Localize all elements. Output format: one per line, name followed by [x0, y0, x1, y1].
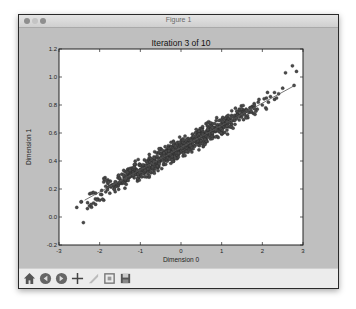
- y-axis-label: Dimension 1: [25, 129, 32, 166]
- x-tick-label: 0: [179, 248, 183, 254]
- forward-button[interactable]: [54, 271, 68, 285]
- home-icon: [23, 272, 36, 285]
- subplots-config-icon: [103, 272, 116, 285]
- y-tick-label: 0.8: [49, 102, 58, 108]
- save-button[interactable]: [118, 271, 132, 285]
- move-crosshair-icon: [71, 272, 84, 285]
- x-tick-label: 1: [220, 248, 224, 254]
- zoom-button[interactable]: [86, 271, 100, 285]
- window-title: Figure 1: [19, 16, 338, 23]
- y-tick-label: 0.4: [49, 158, 58, 164]
- back-button[interactable]: [38, 271, 52, 285]
- window-titlebar[interactable]: Figure 1: [19, 15, 338, 28]
- y-tick-label: 1.0: [49, 74, 58, 80]
- navigation-toolbar: [19, 268, 338, 288]
- chart-title: Iteration 3 of 10: [151, 38, 210, 48]
- back-arrow-icon: [39, 272, 52, 285]
- y-tick-label: 1.2: [49, 46, 58, 52]
- figure-canvas[interactable]: -3-2-10123-0.20.00.20.40.60.81.01.2 Iter…: [19, 28, 338, 270]
- y-tick-label: 0.0: [49, 214, 58, 220]
- home-button[interactable]: [22, 271, 36, 285]
- x-axis-label: Dimension 0: [163, 256, 200, 263]
- x-tick-label: -3: [56, 248, 62, 254]
- forward-arrow-icon: [55, 272, 68, 285]
- save-floppy-icon: [119, 272, 132, 285]
- figure-window: Figure 1 -3-2-10123-0.20.00.20.40.60.81.…: [18, 14, 339, 289]
- x-tick-label: 3: [301, 248, 305, 254]
- y-tick-label: 0.2: [49, 186, 58, 192]
- x-tick-label: -1: [138, 248, 144, 254]
- pan-button[interactable]: [70, 271, 84, 285]
- y-tick-label: -0.2: [47, 242, 58, 248]
- zoom-rect-icon: [87, 272, 100, 285]
- x-tick-label: -2: [97, 248, 103, 254]
- y-tick-label: 0.6: [49, 130, 58, 136]
- scatter-plot: -3-2-10123-0.20.00.20.40.60.81.01.2 Iter…: [19, 28, 338, 270]
- x-tick-label: 2: [261, 248, 265, 254]
- subplots-button[interactable]: [102, 271, 116, 285]
